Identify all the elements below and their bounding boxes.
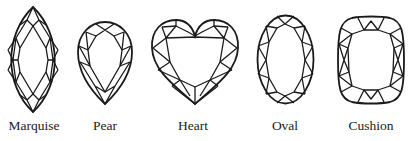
label-pear: Pear — [93, 118, 117, 134]
marquise-cut-icon — [8, 7, 58, 112]
label-marquise: Marquise — [9, 118, 60, 134]
heart-cut-icon — [152, 20, 238, 104]
label-oval: Oval — [272, 118, 298, 134]
pear-cut-icon — [78, 22, 132, 104]
label-heart: Heart — [178, 118, 208, 134]
cushion-cut-icon — [338, 17, 404, 104]
label-cushion: Cushion — [348, 118, 393, 134]
oval-cut-icon — [258, 16, 314, 104]
